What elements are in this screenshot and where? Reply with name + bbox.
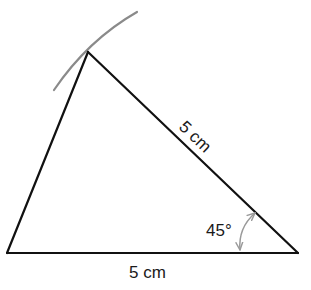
side-left bbox=[7, 52, 88, 253]
angle-marker-icon bbox=[240, 213, 255, 250]
side-hypotenuse bbox=[88, 52, 298, 253]
base-label: 5 cm bbox=[129, 263, 166, 282]
hypotenuse-label: 5 cm bbox=[175, 117, 215, 156]
construction-arc bbox=[54, 12, 137, 90]
angle-label: 45° bbox=[206, 221, 232, 240]
triangle-diagram: 5 cm 45° 5 cm bbox=[0, 0, 311, 290]
